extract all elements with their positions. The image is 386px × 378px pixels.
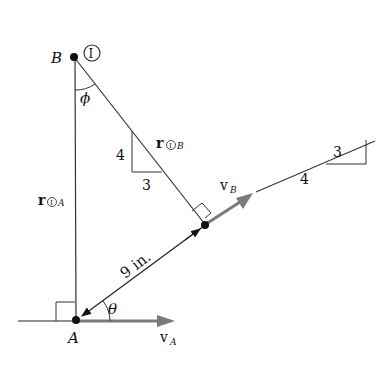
slope-rise-incline: 3 [333, 144, 342, 160]
slope-triangle-incline [326, 140, 366, 164]
r-IB-subscript: B [176, 141, 184, 151]
label-r-IB: r [156, 135, 164, 151]
label-instant-center: I [89, 47, 94, 61]
slope-run-rod: 3 [142, 177, 151, 193]
r-IA-circle-label: I [50, 199, 53, 207]
label-vB: v [219, 177, 228, 193]
label-phi: ϕ [80, 89, 90, 107]
point-A [72, 316, 80, 324]
velocity-arrowhead-vB [236, 193, 253, 209]
line-r-IA [75, 57, 76, 320]
r-IB-circle-label: I [169, 142, 172, 150]
vA-subscript: A [169, 337, 177, 347]
right-angle-marker-A [56, 302, 75, 321]
slope-run-incline: 4 [300, 171, 309, 187]
point-rod-end [201, 221, 209, 229]
incline-line-upper [256, 141, 375, 192]
slope-rise-rod: 4 [116, 147, 125, 163]
point-B [70, 53, 78, 61]
label-theta: θ [108, 300, 117, 318]
vB-subscript: B [229, 185, 237, 195]
label-B: B [50, 49, 62, 67]
rod-arrow-into-B [185, 229, 200, 240]
line-r-IB [74, 57, 204, 223]
r-IA-subscript: A [57, 198, 65, 208]
label-vA: v [159, 329, 168, 345]
label-A: A [66, 329, 79, 347]
label-r-IA: r [38, 192, 46, 208]
kinematics-diagram: 4 3 3 4 B I A ϕ θ 9 in. r I B r I A v B … [0, 0, 386, 378]
velocity-arrowhead-vA [157, 315, 175, 327]
